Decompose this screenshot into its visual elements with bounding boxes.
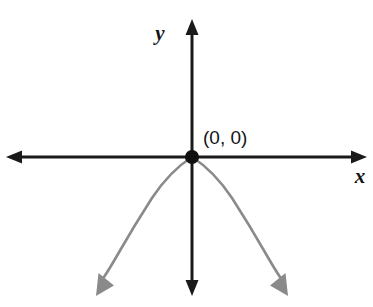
y-axis-label: y (152, 21, 165, 45)
origin-coordinate-label: (0, 0) (203, 127, 247, 148)
coordinate-plane-figure: y x (0, 0) (0, 0, 373, 307)
x-axis-label: x (354, 164, 366, 188)
y-axis-top-arrow-icon (186, 19, 199, 35)
x-axis-right-arrow-icon (351, 151, 367, 164)
parabola-diagram: y x (0, 0) (0, 0, 373, 307)
origin-point-marker (185, 150, 199, 164)
y-axis-bottom-arrow-icon (186, 280, 199, 296)
x-axis-left-arrow-icon (6, 151, 22, 164)
